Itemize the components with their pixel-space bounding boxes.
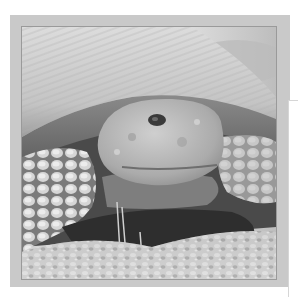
- frame-notch: [288, 100, 298, 297]
- head: [98, 99, 224, 185]
- image-canvas: [0, 0, 298, 297]
- photo-frame-right-extension: [276, 15, 290, 100]
- tortoise-illustration: [22, 27, 276, 279]
- tortoise-photo: [22, 27, 276, 279]
